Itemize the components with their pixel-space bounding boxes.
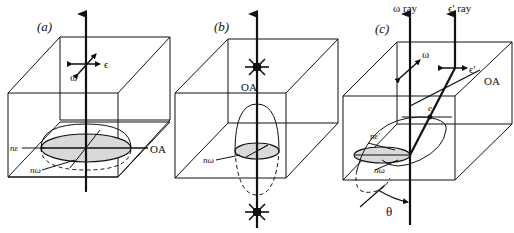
n-epsilon-prime-label: nε' — [370, 132, 380, 141]
optic-axis-label: OA — [484, 76, 500, 87]
n-omega-label: nω — [203, 156, 214, 165]
panel-c-label: (c) — [375, 22, 389, 35]
birefringence-figure: (a) ϵ ω OA nε nω (b) OA nω ω ray ϵ' ray … — [0, 0, 514, 233]
figure-drawing — [0, 0, 514, 233]
omega-polarization-label: ω — [422, 49, 429, 60]
omega-polarization-label: ω — [70, 72, 77, 83]
optic-axis-label: OA — [241, 82, 257, 93]
epsilon-prime-polarization-label: ϵ' — [469, 64, 475, 75]
n-omega-label: nω — [30, 166, 41, 175]
point-e-label: e — [428, 104, 432, 113]
theta-angle-label: θ — [386, 205, 392, 218]
epsilon-prime-ray-label: ϵ' ray — [448, 3, 471, 14]
omega-ray-label: ω ray — [393, 3, 417, 14]
panel-c — [343, 14, 512, 225]
n-epsilon-label: nε — [10, 144, 18, 153]
n-omega-label: nω — [374, 166, 385, 175]
epsilon-polarization-label: ϵ — [104, 59, 108, 70]
optic-axis-label: OA — [150, 144, 166, 155]
panel-b-label: (b) — [214, 20, 229, 33]
panel-b — [175, 14, 338, 228]
panel-a-label: (a) — [37, 20, 52, 33]
